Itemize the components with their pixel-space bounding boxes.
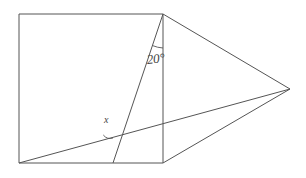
geometry-figure: 20° x [0,0,306,178]
cevian-from-apex [113,14,163,163]
angle-twenty-arc [152,46,163,49]
lower-triangle-edge [163,89,290,163]
geometry-canvas [0,0,306,178]
diagonal-to-vertex [19,89,290,163]
upper-triangle-edge [163,14,290,89]
angle-twenty-label: 20° [146,51,165,66]
angle-x-label: x [104,115,108,125]
